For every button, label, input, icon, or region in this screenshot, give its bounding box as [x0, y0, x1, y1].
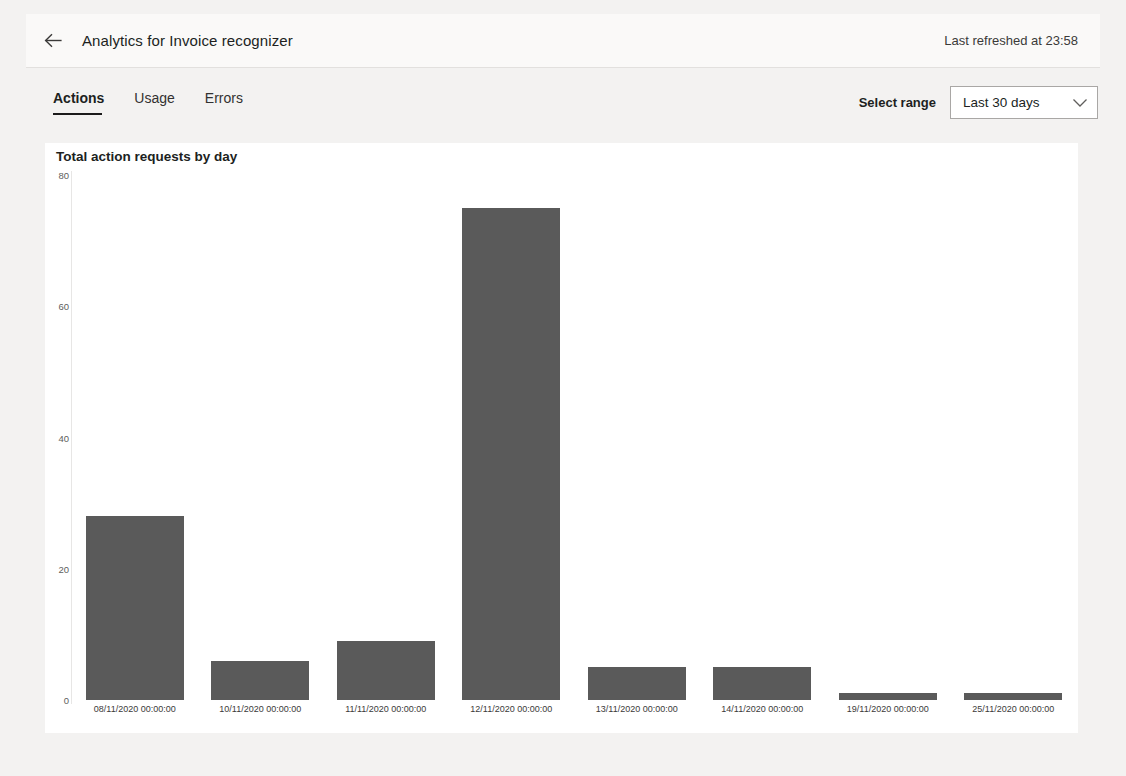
x-axis-label: 11/11/2020 00:00:00	[345, 704, 426, 714]
x-axis-label: 19/11/2020 00:00:00	[847, 704, 929, 714]
last-refreshed-text: Last refreshed at 23:58	[944, 33, 1078, 48]
x-axis-label: 25/11/2020 00:00:00	[972, 704, 1054, 714]
x-axis-label: 13/11/2020 00:00:00	[596, 704, 678, 714]
x-axis-label: 08/11/2020 00:00:00	[94, 704, 176, 714]
bar[interactable]	[713, 667, 811, 700]
page-title: Analytics for Invoice recognizer	[82, 32, 293, 49]
y-axis-tick-60: 60	[45, 301, 69, 312]
range-dropdown[interactable]: Last 30 days	[950, 86, 1098, 119]
y-axis-tick-40: 40	[45, 432, 69, 443]
bar-chart-plot: 020406080 08/11/2020 00:00:0010/11/2020 …	[45, 143, 1078, 733]
chevron-down-icon	[1072, 98, 1088, 108]
tab-errors[interactable]: Errors	[205, 90, 243, 115]
tab-actions[interactable]: Actions	[53, 90, 104, 115]
bar[interactable]	[839, 693, 937, 700]
x-axis-label: 14/11/2020 00:00:00	[721, 704, 803, 714]
range-dropdown-value: Last 30 days	[963, 95, 1040, 110]
analytics-page: Analytics for Invoice recognizer Last re…	[0, 0, 1126, 776]
bar[interactable]	[211, 661, 309, 700]
bar[interactable]	[964, 693, 1062, 700]
bar[interactable]	[86, 516, 184, 700]
bar-series	[72, 143, 1076, 733]
y-axis-tick-80: 80	[45, 170, 69, 181]
command-bar: Actions Usage Errors Select range Last 3…	[26, 68, 1100, 138]
tab-usage[interactable]: Usage	[134, 90, 174, 115]
x-axis-label: 12/11/2020 00:00:00	[470, 704, 552, 714]
range-picker: Select range Last 30 days	[859, 86, 1098, 119]
y-axis-tick-20: 20	[45, 563, 69, 574]
x-axis-label: 10/11/2020 00:00:00	[219, 704, 301, 714]
page-header: Analytics for Invoice recognizer Last re…	[26, 14, 1100, 68]
bar[interactable]	[337, 641, 435, 700]
chart-panel: Total action requests by day 020406080 0…	[45, 143, 1078, 733]
y-axis-tick-0: 0	[45, 695, 69, 706]
bar[interactable]	[588, 667, 686, 700]
back-button[interactable]	[36, 24, 70, 58]
tab-list: Actions Usage Errors	[53, 90, 243, 115]
bar[interactable]	[462, 208, 560, 700]
select-range-label: Select range	[859, 95, 936, 110]
arrow-left-icon	[44, 33, 63, 48]
